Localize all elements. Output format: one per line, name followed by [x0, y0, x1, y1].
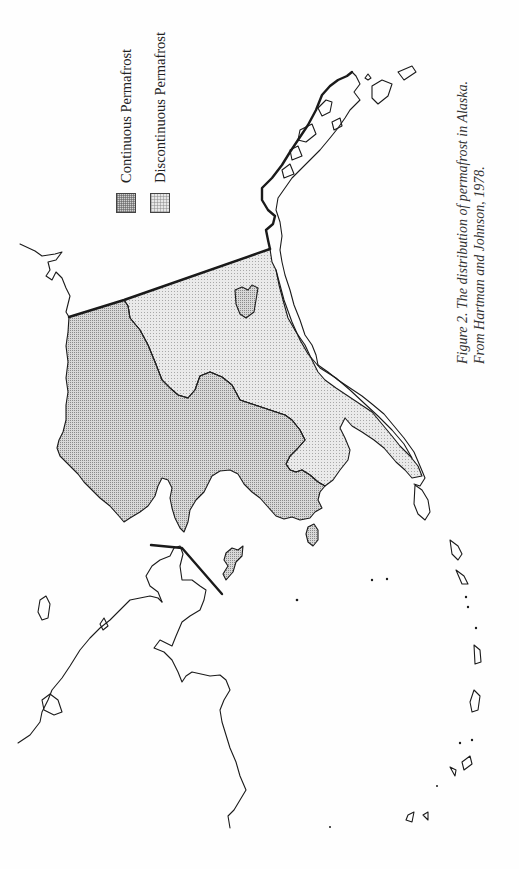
figure-caption: Figure 2. The distribution of permafrost…: [454, 81, 488, 364]
island-st-lawrence: [223, 546, 243, 580]
island-nunivak: [306, 524, 318, 546]
figure-page: Continuous Permafrost Discontinuous Perm…: [0, 0, 519, 869]
caption-line-2: From Hartman and Johnson, 1978.: [471, 81, 488, 364]
continuous-permafrost-swatch: [116, 193, 136, 213]
chukotka-coast: [18, 596, 162, 743]
panhandle-border: [262, 72, 352, 249]
chukotka-islands: [38, 596, 108, 715]
continuous-permafrost-label: Continuous Permafrost: [118, 49, 135, 183]
discontinuous-permafrost-swatch: [150, 193, 170, 213]
date-line-border: [151, 545, 222, 594]
caption-line-1: Figure 2. The distribution of permafrost…: [454, 81, 471, 364]
permafrost-map: [0, 0, 519, 869]
chukotka-peninsula: [146, 546, 246, 828]
map-legend: Continuous Permafrost Discontinuous Perm…: [108, 20, 188, 220]
aleutian-islands: [296, 485, 481, 828]
panhandle-islands: [282, 66, 416, 178]
discontinuous-permafrost-label: Discontinuous Permafrost: [152, 32, 169, 183]
arctic-coast-north: [20, 244, 70, 317]
